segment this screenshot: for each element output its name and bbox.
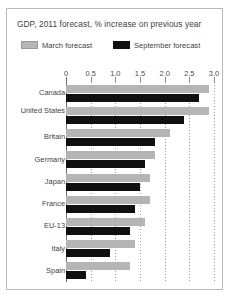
bar-september <box>66 160 145 168</box>
bar-row <box>66 218 214 235</box>
plot-area <box>66 82 214 282</box>
bar-september <box>66 249 110 257</box>
gridline <box>214 82 215 282</box>
black-swatch-icon <box>113 41 130 49</box>
bar-september <box>66 205 135 213</box>
bar-row <box>66 262 214 279</box>
legend-entry-march: March forecast <box>21 39 92 51</box>
category-label: Japan <box>15 178 65 186</box>
bar-row <box>66 85 214 102</box>
bar-september <box>66 138 155 146</box>
legend-label-september: September forecast <box>134 41 200 50</box>
bar-march <box>66 218 145 226</box>
category-label: Italy <box>15 245 65 253</box>
bar-march <box>66 240 135 248</box>
plot: 00.51.01.52.02.53.0 <box>66 69 214 284</box>
bar-row <box>66 129 214 146</box>
bar-september <box>66 227 130 235</box>
bar-march <box>66 151 155 159</box>
bar-march <box>66 196 150 204</box>
category-axis-labels: CanadaUnited StatesBritainGermanyJapanFr… <box>15 82 65 282</box>
bar-row <box>66 107 214 124</box>
bar-march <box>66 129 170 137</box>
bar-september <box>66 94 199 102</box>
x-tick-mark <box>214 77 215 82</box>
bar-row <box>66 196 214 213</box>
bar-september <box>66 116 184 124</box>
legend-entry-september: September forecast <box>113 39 200 51</box>
category-label: France <box>15 200 65 208</box>
bar-september <box>66 183 140 191</box>
bar-march <box>66 107 209 115</box>
bar-rows <box>66 82 214 282</box>
chart-legend: March forecast September forecast <box>17 39 217 51</box>
bar-row <box>66 151 214 168</box>
bar-march <box>66 85 209 93</box>
category-label: United States <box>15 107 65 115</box>
legend-label-march: March forecast <box>42 41 92 50</box>
chart-card: GDP, 2011 forecast, % increase on previo… <box>6 8 223 290</box>
chart-title: GDP, 2011 forecast, % increase on previo… <box>17 19 217 29</box>
category-label: Britain <box>15 133 65 141</box>
bar-march <box>66 262 130 270</box>
bar-march <box>66 174 150 182</box>
category-label: Germany <box>15 156 65 164</box>
bar-row <box>66 240 214 257</box>
category-label: Canada <box>15 89 65 97</box>
category-label: EU-13 <box>15 222 65 230</box>
bar-september <box>66 271 86 279</box>
bar-row <box>66 174 214 191</box>
category-label: Spain <box>15 267 65 275</box>
gray-swatch-icon <box>21 41 38 49</box>
